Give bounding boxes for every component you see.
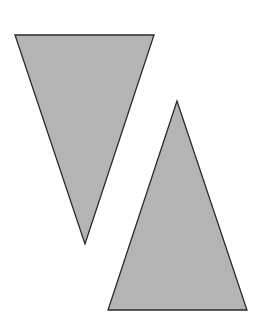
triangles-diagram [0,0,262,332]
